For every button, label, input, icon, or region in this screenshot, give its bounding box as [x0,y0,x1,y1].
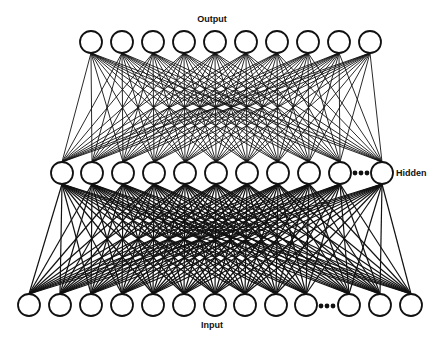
input-node [204,294,226,316]
output-node [297,31,319,53]
output-node [266,31,288,53]
hidden-node [112,162,134,184]
hidden-node [205,162,227,184]
connection-edge [62,184,276,294]
output-node [235,31,257,53]
output-layer [80,31,381,53]
hidden-node [371,162,393,184]
hidden-layer [51,162,393,184]
input-node [295,294,317,316]
input-node [49,294,71,316]
input-node [234,294,256,316]
connection-edge [62,53,91,162]
input-node [265,294,287,316]
hidden-node [51,162,73,184]
input-node [338,294,360,316]
hidden-node [298,162,320,184]
hidden-node [236,162,258,184]
output-node [111,31,133,53]
hidden-node [81,162,103,184]
output-node [173,31,195,53]
connection-edge [246,53,382,162]
connection-edge [91,53,92,162]
hidden-to-output-connections [62,53,382,162]
hidden-layer-label: Hidden [396,168,427,178]
hidden-node [174,162,196,184]
connection-edge [91,53,185,162]
hidden-node [143,162,165,184]
neural-network-diagram: Output Hidden Input [0,0,444,341]
output-layer-label: Output [197,14,227,24]
input-to-hidden-connections [29,184,411,294]
hidden-ellipsis-icon [353,171,370,176]
input-layer [18,294,422,316]
input-layer-label: Input [201,320,223,330]
input-node [142,294,164,316]
hidden-node [329,162,351,184]
output-node [80,31,102,53]
hidden-node [267,162,289,184]
input-node [80,294,102,316]
output-node [204,31,226,53]
input-ellipsis-icon [319,304,336,309]
input-node [111,294,133,316]
output-node [359,31,381,53]
output-node [142,31,164,53]
input-node [400,294,422,316]
input-node [369,294,391,316]
output-node [328,31,350,53]
input-node [173,294,195,316]
input-node [18,294,40,316]
connection-edge [184,53,382,162]
